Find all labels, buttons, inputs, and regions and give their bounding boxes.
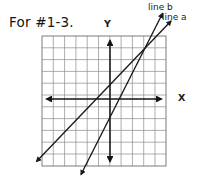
prompt-text: For #1-3. bbox=[9, 16, 74, 30]
line-b-label: line b bbox=[148, 3, 173, 12]
y-axis-label: Y bbox=[104, 19, 111, 29]
graph-figure: For #1-3. line b line a Y X bbox=[0, 0, 198, 179]
line-a-label: line a bbox=[162, 13, 187, 22]
x-axis-label: X bbox=[178, 93, 185, 103]
grid-background bbox=[42, 36, 166, 166]
